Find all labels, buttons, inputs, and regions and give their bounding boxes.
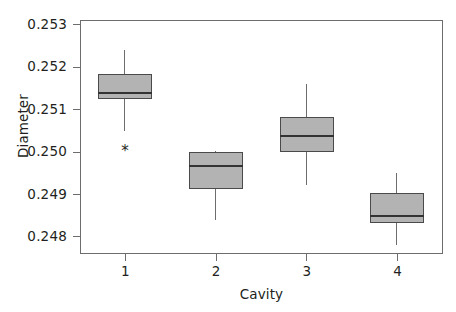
plot-area: * [80, 20, 443, 254]
y-axis-tick [73, 236, 80, 237]
y-axis-tick [73, 67, 80, 68]
box-iqr-rect [370, 193, 424, 223]
x-axis-tick-label: 3 [287, 263, 327, 279]
x-axis-tick-label: 2 [196, 263, 236, 279]
x-axis-tick-label: 1 [105, 263, 145, 279]
boxplot-figure: Diameter * 0.2530.2520.2510.2500.2490.24… [0, 0, 456, 312]
y-axis-tick-label: 0.252 [5, 58, 67, 74]
median-line [98, 92, 152, 94]
x-axis-tick [397, 254, 398, 261]
y-axis-tick-label: 0.250 [5, 143, 67, 159]
x-axis-tick [216, 254, 217, 261]
box-iqr-rect [98, 74, 152, 99]
y-axis-tick-label: 0.253 [5, 16, 67, 32]
median-line [370, 215, 424, 217]
y-axis-title: Diameter [15, 71, 31, 181]
y-axis-tick [73, 24, 80, 25]
x-axis-tick [306, 254, 307, 261]
y-axis-tick [73, 152, 80, 153]
y-axis-tick-label: 0.251 [5, 101, 67, 117]
box-iqr-rect [189, 152, 243, 189]
x-axis-tick-label: 4 [378, 263, 418, 279]
y-axis-tick [73, 109, 80, 110]
y-axis-tick-label: 0.248 [5, 228, 67, 244]
outlier-marker: * [118, 148, 132, 155]
median-line [189, 165, 243, 167]
x-axis-title: Cavity [80, 286, 443, 302]
median-line [280, 135, 334, 137]
x-axis-tick [125, 254, 126, 261]
y-axis-tick-label: 0.249 [5, 186, 67, 202]
y-axis-tick [73, 194, 80, 195]
